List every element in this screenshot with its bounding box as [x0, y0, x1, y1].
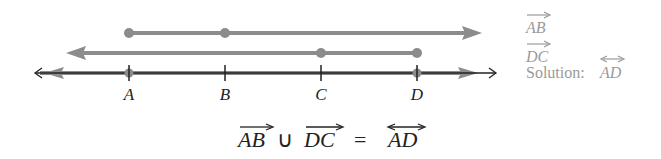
equation: AB ∪ DC = AD: [236, 124, 425, 152]
ray-ab: [124, 26, 482, 40]
arrowhead-icon: [66, 46, 86, 60]
point-d-dot: [412, 48, 422, 58]
point-c-dot: [316, 48, 326, 58]
legend: AB DC Solution: AD: [525, 12, 624, 81]
line-ad: [35, 65, 496, 81]
equation-equals: =: [354, 127, 366, 152]
point-a-dot: [124, 28, 134, 38]
label-a: A: [123, 85, 135, 104]
equation-term-dc: DC: [303, 127, 335, 152]
union-of-rays-diagram: A B C D AB DC Solution: AD AB ∪ DC = AD: [0, 0, 661, 159]
equation-union: ∪: [277, 127, 293, 152]
label-b: B: [220, 85, 231, 104]
arrowhead-icon: [462, 26, 482, 40]
label-d: D: [410, 85, 424, 104]
point-b-dot: [220, 28, 230, 38]
legend-solution-line: AD: [599, 64, 622, 81]
equation-result-ad: AD: [386, 127, 417, 152]
legend-ray-dc: DC: [525, 48, 549, 65]
legend-ray-ab: AB: [525, 19, 546, 36]
ray-dc: [66, 46, 422, 60]
legend-solution-prefix: Solution:: [526, 64, 585, 81]
equation-term-ab: AB: [236, 127, 265, 152]
label-c: C: [315, 85, 327, 104]
